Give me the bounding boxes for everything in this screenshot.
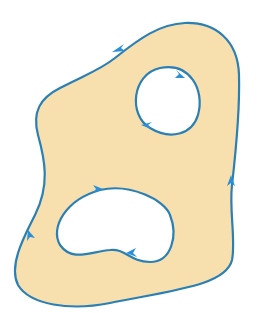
arrow-icon — [112, 44, 125, 52]
shaded-region — [15, 23, 239, 306]
region-diagram — [0, 0, 257, 313]
